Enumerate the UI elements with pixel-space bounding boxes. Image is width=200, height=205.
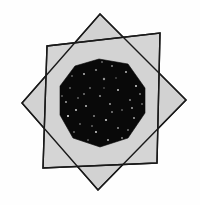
core-speckle bbox=[85, 105, 87, 107]
core-speckle bbox=[99, 95, 101, 97]
core-speckle bbox=[111, 65, 113, 67]
core-speckle bbox=[73, 131, 74, 132]
core-speckle bbox=[95, 131, 97, 133]
core-speckle bbox=[139, 93, 141, 95]
core-speckle bbox=[121, 137, 123, 139]
core-speckle bbox=[79, 123, 81, 125]
core-speckle bbox=[89, 87, 90, 88]
core-speckle bbox=[103, 78, 105, 80]
core-speckle bbox=[125, 71, 127, 73]
core-speckle bbox=[75, 109, 77, 111]
core-speckle bbox=[91, 125, 92, 126]
core-speckle bbox=[115, 77, 116, 78]
core-speckle bbox=[61, 95, 62, 96]
core-speckle bbox=[77, 97, 79, 99]
core-speckle bbox=[101, 61, 103, 63]
core-speckle bbox=[69, 87, 71, 89]
core-speckle bbox=[107, 139, 109, 141]
core-speckle bbox=[67, 115, 69, 117]
core-speckle bbox=[103, 87, 104, 88]
core-speckle bbox=[133, 117, 135, 119]
core-speckle bbox=[131, 107, 133, 109]
core-speckle bbox=[87, 139, 89, 141]
core-speckle bbox=[65, 101, 67, 103]
core-speckle bbox=[141, 103, 142, 104]
core-speckle bbox=[117, 127, 119, 129]
core-speckle bbox=[95, 69, 97, 71]
core-speckle bbox=[71, 75, 73, 77]
core-speckle bbox=[109, 103, 111, 105]
core-speckle bbox=[105, 119, 107, 121]
eight-pointed-star-figure: Eight-pointed star figure bbox=[0, 0, 200, 205]
figure-canvas: Eight-pointed star figure bbox=[0, 0, 200, 205]
core-speckle bbox=[83, 73, 85, 75]
core-speckle bbox=[117, 89, 119, 91]
core-speckle bbox=[129, 99, 131, 101]
core-speckle bbox=[83, 93, 84, 94]
core-speckle bbox=[135, 85, 137, 87]
core-speckle bbox=[93, 115, 95, 117]
core-speckle bbox=[127, 129, 129, 131]
core-speckle bbox=[111, 111, 113, 113]
core-speckle bbox=[121, 109, 123, 111]
